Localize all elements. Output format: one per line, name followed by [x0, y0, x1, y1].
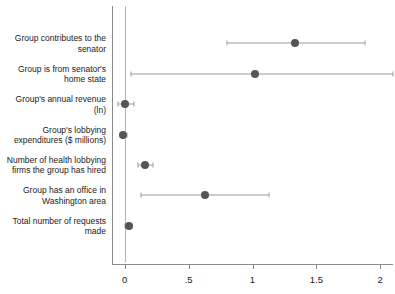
confidence-interval-cap: [133, 102, 134, 107]
y-axis-line: [112, 6, 113, 265]
category-label: Total number of requests made: [2, 215, 106, 236]
confidence-interval-cap: [141, 193, 142, 198]
x-tick-mark: [253, 265, 254, 269]
category-label: Group's lobbying expenditures ($ million…: [2, 124, 106, 145]
estimate-point: [121, 100, 129, 108]
confidence-interval-cap: [269, 193, 270, 198]
confidence-interval-cap: [364, 41, 365, 46]
x-tick-label: 0: [122, 274, 127, 285]
confidence-interval-cap: [393, 71, 394, 76]
confidence-interval-cap: [118, 102, 119, 107]
category-label: Group's annual revenue (ln): [2, 94, 106, 115]
confidence-interval-cap: [131, 71, 132, 76]
x-tick-mark: [380, 265, 381, 269]
plot-area: 0.511.52: [112, 6, 393, 265]
x-tick-label: .5: [185, 274, 193, 285]
category-label: Group has an office in Washington area: [2, 185, 106, 206]
category-label: Number of health lobbying firms the grou…: [2, 154, 106, 175]
x-tick-mark: [316, 265, 317, 269]
confidence-interval-cap: [137, 162, 138, 167]
confidence-interval-cap: [152, 162, 153, 167]
x-tick-label: 2: [378, 274, 383, 285]
category-label: Group contributes to the senator: [2, 33, 106, 54]
category-label: Group is from senator's home state: [2, 63, 106, 84]
estimate-point: [251, 70, 259, 78]
estimate-point: [201, 191, 209, 199]
confidence-interval-cap: [226, 41, 227, 46]
x-tick-mark: [189, 265, 190, 269]
estimate-point: [291, 39, 299, 47]
category-label-column: Group contributes to the senatorGroup is…: [0, 0, 110, 262]
estimate-point: [119, 131, 127, 139]
x-tick-label: 1.5: [310, 274, 323, 285]
x-tick-mark: [125, 265, 126, 269]
confidence-interval-line: [131, 73, 393, 74]
estimate-point: [125, 222, 133, 230]
estimate-point: [141, 161, 149, 169]
x-tick-label: 1: [250, 274, 255, 285]
coefficient-plot-figure: Group contributes to the senatorGroup is…: [0, 0, 395, 294]
